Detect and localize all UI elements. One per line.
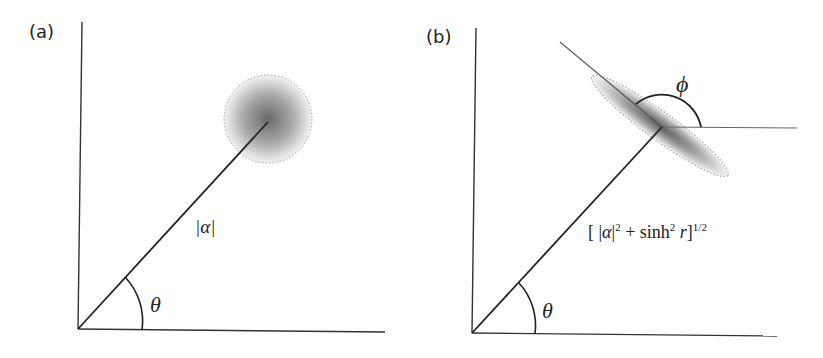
panel-a: (a) |α| θ — [29, 21, 385, 332]
panel-a-amplitude-label: |α| — [195, 216, 215, 237]
panel-b-x-axis — [472, 333, 777, 336]
panel-b-phi-label: ϕ — [676, 71, 688, 97]
panel-a-theta-label: θ — [150, 292, 161, 317]
panel-b-label: (b) — [426, 26, 451, 47]
panel-b: (b) ϕ [ |α|2 + sinh2 r]1/2 θ — [426, 26, 797, 336]
panel-b-y-axis — [472, 28, 476, 333]
panel-a-amplitude-vector — [78, 122, 268, 329]
panel-b-amplitude-label: [ |α|2 + sinh2 r]1/2 — [588, 221, 707, 242]
panel-b-squeeze-axis-line — [560, 42, 662, 127]
panel-b-theta-arc — [519, 283, 536, 334]
panel-a-label: (a) — [29, 21, 54, 42]
panel-a-theta-arc — [125, 277, 143, 330]
phase-space-diagram: (a) |α| θ (b) — [0, 0, 823, 358]
panel-a-x-axis — [78, 329, 385, 332]
panel-a-y-axis — [78, 22, 82, 329]
panel-b-theta-label: θ — [542, 298, 553, 323]
